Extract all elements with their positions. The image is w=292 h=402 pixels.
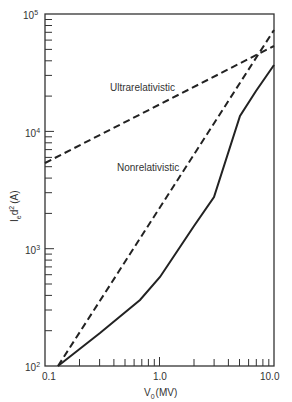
nonrelativistic-line [58, 30, 274, 366]
svg-text:10.0: 10.0 [260, 371, 280, 382]
y-tick-labels: 105 104 103 102 [23, 9, 40, 373]
ultrarelativistic-line [45, 46, 274, 163]
svg-text:103: 103 [25, 244, 40, 256]
svg-text:102: 102 [25, 361, 40, 373]
nonrelativistic-label: Nonrelativistic [117, 162, 179, 173]
y-ticks [45, 20, 54, 331]
x-ticks [80, 357, 269, 366]
plot-frame [45, 14, 274, 366]
svg-text:104: 104 [25, 127, 40, 139]
exact-curve [58, 65, 274, 366]
x-axis-label: V0(MV) [144, 387, 177, 400]
chart: Ultrarelativistic Nonrelativistic 105 10… [0, 0, 292, 402]
svg-text:0.1: 0.1 [42, 371, 56, 382]
y-axis-label: Ied2(A) [8, 191, 22, 223]
ultrarelativistic-label: Ultrarelativistic [110, 82, 175, 93]
x-tick-labels: 0.1 1.0 10.0 [42, 371, 280, 382]
svg-text:105: 105 [23, 9, 38, 21]
svg-text:1.0: 1.0 [153, 371, 167, 382]
